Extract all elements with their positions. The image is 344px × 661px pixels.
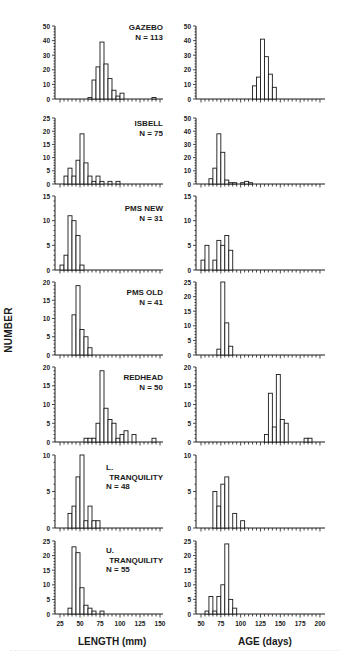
histogram-bar — [88, 438, 92, 442]
histogram-bar — [120, 93, 124, 99]
svg-text:10: 10 — [43, 154, 51, 161]
histogram-bar — [108, 79, 112, 99]
svg-text:50: 50 — [43, 23, 51, 30]
histogram-bar — [92, 521, 96, 528]
histogram-bar — [245, 181, 249, 184]
histogram-bar — [225, 544, 229, 614]
histogram-bar — [80, 455, 84, 528]
svg-text:10: 10 — [184, 322, 192, 329]
x-tick-label: 50 — [197, 620, 205, 627]
svg-text:10: 10 — [184, 217, 192, 224]
histogram-bar — [104, 408, 108, 442]
histogram-bar — [257, 77, 261, 99]
svg-text:25: 25 — [184, 538, 192, 545]
histogram-bar — [209, 179, 213, 184]
histogram-bar — [68, 216, 72, 270]
panel-label: N = 48 — [106, 482, 130, 491]
histogram-bar — [229, 346, 233, 355]
histogram-bar — [221, 282, 225, 355]
histogram-pms-new-age: 051015 — [184, 193, 325, 274]
histogram-gazebo-age: 01020304050 — [184, 23, 325, 103]
histogram-bar — [217, 506, 221, 528]
x-tick-label: 200 — [315, 620, 326, 627]
histogram-l-tranquility-length: 0510L.TRANQUILITYN = 48 — [43, 452, 164, 532]
svg-text:15: 15 — [184, 193, 192, 200]
svg-text:0: 0 — [187, 611, 191, 618]
histogram-bar — [84, 521, 88, 528]
histogram-bar — [92, 80, 96, 99]
histogram-bar — [221, 245, 225, 270]
histogram-bar — [280, 420, 284, 443]
svg-text:10: 10 — [43, 452, 51, 459]
caption-fragment — [10, 650, 340, 657]
svg-text:15: 15 — [43, 141, 51, 148]
histogram-bar — [96, 67, 100, 99]
svg-text:0: 0 — [46, 611, 50, 618]
histogram-bar — [264, 435, 268, 443]
svg-text:10: 10 — [184, 452, 192, 459]
panel-label: N = 50 — [139, 383, 163, 392]
panel-label: TRANQUILITY — [109, 473, 163, 482]
x-tick-label: 175 — [295, 620, 306, 627]
histogram-pms-old-age: 0510152025 — [184, 279, 325, 359]
svg-text:30: 30 — [184, 141, 192, 148]
svg-text:0: 0 — [46, 352, 50, 359]
histogram-bar — [132, 435, 136, 443]
svg-text:5: 5 — [46, 596, 50, 603]
svg-text:5: 5 — [46, 420, 50, 427]
svg-text:40: 40 — [184, 128, 192, 135]
histogram-bar — [76, 235, 80, 270]
histogram-bar — [80, 329, 84, 355]
svg-text:10: 10 — [184, 167, 192, 174]
histogram-bar — [221, 484, 225, 528]
x-tick-label: 150 — [275, 620, 286, 627]
panel-label: REDHEAD — [123, 373, 163, 382]
histogram-bar — [88, 608, 92, 614]
histogram-bar — [80, 134, 84, 184]
histogram-bar — [92, 438, 96, 442]
svg-text:40: 40 — [184, 37, 192, 44]
histogram-bar — [116, 181, 120, 184]
svg-text:15: 15 — [184, 308, 192, 315]
histogram-bar — [84, 605, 88, 614]
histogram-bar — [112, 423, 116, 442]
svg-text:10: 10 — [43, 81, 51, 88]
x-tick-label: 50 — [76, 620, 84, 627]
svg-text:15: 15 — [43, 382, 51, 389]
histogram-bar — [72, 547, 76, 614]
histogram-pms-old-length: 05101520PMS OLDN = 41 — [43, 279, 164, 359]
histogram-isbell-length: 0510152025ISBELLN = 75 — [43, 115, 164, 188]
x-tick-label: 150 — [155, 620, 166, 627]
histogram-bar — [253, 86, 257, 99]
histogram-bar — [84, 438, 88, 442]
svg-text:0: 0 — [46, 439, 50, 446]
panel-label: U. — [106, 546, 114, 555]
svg-text:25: 25 — [43, 115, 51, 122]
histogram-bar — [229, 599, 233, 614]
histogram-bar — [284, 423, 288, 442]
histogram-l-tranquility-age: 0510 — [184, 452, 325, 532]
histogram-bar — [213, 492, 217, 529]
histogram-bar — [233, 183, 237, 184]
histogram-bar — [229, 250, 233, 270]
y-axis-label: NUMBER — [3, 307, 14, 353]
svg-text:15: 15 — [184, 382, 192, 389]
histogram-u-tranquility-age: 05101520255075100125150175200 — [184, 538, 326, 628]
svg-text:0: 0 — [46, 267, 50, 274]
svg-text:0: 0 — [187, 96, 191, 103]
panel-label: N = 31 — [139, 214, 163, 223]
svg-text:10: 10 — [43, 401, 51, 408]
panel-label: L. — [106, 463, 113, 472]
histogram-bar — [76, 286, 80, 355]
histogram-bar — [205, 245, 209, 270]
svg-text:5: 5 — [46, 488, 50, 495]
histogram-bar — [100, 371, 104, 442]
svg-text:0: 0 — [187, 525, 191, 532]
svg-text:30: 30 — [184, 52, 192, 59]
svg-text:20: 20 — [184, 293, 192, 300]
histogram-bar — [76, 160, 80, 184]
histogram-bar — [225, 323, 229, 355]
panel-label: GAZEBO — [129, 23, 163, 32]
svg-text:15: 15 — [43, 567, 51, 574]
histogram-bar — [233, 513, 237, 528]
